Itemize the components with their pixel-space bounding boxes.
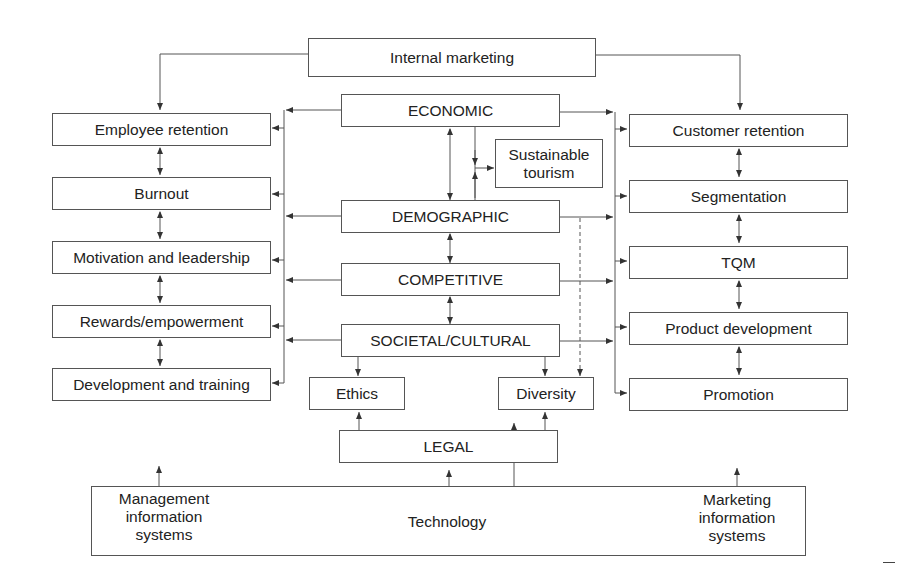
page-edge-mark — [883, 562, 895, 563]
product-development-label: Product development — [665, 320, 811, 338]
promotion-label: Promotion — [703, 386, 774, 404]
segmentation-box: Segmentation — [629, 180, 848, 213]
tqm-box: TQM — [629, 246, 848, 279]
technology-box: Management information systems Technolog… — [91, 486, 806, 556]
product-development-box: Product development — [629, 312, 848, 345]
customer-retention-label: Customer retention — [673, 122, 805, 140]
promotion-box: Promotion — [629, 378, 848, 411]
customer-retention-box: Customer retention — [629, 114, 848, 147]
segmentation-label: Segmentation — [691, 188, 787, 206]
technology-label: Technology — [397, 513, 497, 531]
marketing-information-systems-label: Marketing information systems — [682, 491, 792, 545]
management-information-systems-label: Management information systems — [104, 490, 224, 544]
tqm-label: TQM — [721, 254, 755, 272]
hospitality-management-framework-diagram: Internal marketing ECONOMIC DEMOGRAPHIC … — [0, 0, 897, 584]
